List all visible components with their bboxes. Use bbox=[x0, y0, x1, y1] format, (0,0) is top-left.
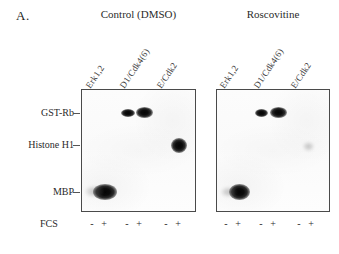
row-tick-histone-h1 bbox=[73, 145, 80, 146]
fcs-mark-roscovitine-erk12-plus: + bbox=[233, 218, 243, 229]
gel-panel-control bbox=[81, 89, 196, 212]
fcs-mark-control-ecdk2-minus: - bbox=[161, 218, 171, 229]
fcs-mark-roscovitine-d1cdk46-plus: + bbox=[268, 218, 278, 229]
band-histoneh1-ecdk2-control bbox=[171, 138, 187, 153]
band-gstrb-d1cdk46-roscovitine-right bbox=[270, 107, 287, 118]
band-mbp-erk12-control-smear bbox=[85, 186, 103, 197]
band-mbp-erk12-roscovitine-smear bbox=[221, 187, 236, 197]
fcs-mark-roscovitine-d1cdk46-minus: - bbox=[256, 218, 266, 229]
lane-label-ecdk2-roscovitine: E/Cdk2 bbox=[289, 61, 313, 90]
lane-label-erk12-roscovitine: Erk1,2 bbox=[218, 63, 241, 90]
fcs-mark-control-d1cdk46-plus: + bbox=[134, 218, 144, 229]
lane-label-d1cdk46-roscovitine: D1/Cdk4(6) bbox=[252, 47, 286, 90]
row-label-histone-h1: Histone H1 bbox=[0, 139, 74, 150]
band-gstrb-d1cdk46-roscovitine-left bbox=[255, 109, 268, 117]
row-label-mbp: MBP bbox=[0, 186, 74, 197]
band-gstrb-d1cdk46-control-right bbox=[136, 107, 153, 118]
gel-panel-roscovitine bbox=[216, 89, 330, 212]
figure-panel-a: A. Control (DMSO) Roscovitine Erk1,2 D1/… bbox=[0, 0, 339, 254]
fcs-mark-control-d1cdk46-minus: - bbox=[122, 218, 132, 229]
fcs-mark-roscovitine-erk12-minus: - bbox=[221, 218, 231, 229]
lane-label-ecdk2-control: E/Cdk2 bbox=[155, 61, 179, 90]
fcs-mark-control-ecdk2-plus: + bbox=[173, 218, 183, 229]
fcs-mark-roscovitine-ecdk2-plus: + bbox=[306, 218, 316, 229]
fcs-mark-control-erk12-minus: - bbox=[87, 218, 97, 229]
band-histoneh1-ecdk2-roscovitine-trace bbox=[303, 142, 314, 151]
lane-label-erk12-control: Erk1,2 bbox=[84, 63, 107, 90]
band-gstrb-d1cdk46-control-left bbox=[121, 109, 135, 117]
row-tick-gst-rb bbox=[73, 113, 80, 114]
row-tick-mbp bbox=[73, 192, 80, 193]
row-label-fcs: FCS bbox=[40, 218, 58, 229]
group-title-roscovitine: Roscovitine bbox=[216, 8, 330, 20]
fcs-mark-control-erk12-plus: + bbox=[99, 218, 109, 229]
panel-letter: A. bbox=[16, 8, 30, 24]
lane-label-d1cdk46-control: D1/Cdk4(6) bbox=[118, 47, 152, 90]
fcs-mark-roscovitine-ecdk2-minus: - bbox=[294, 218, 304, 229]
group-title-control: Control (DMSO) bbox=[81, 8, 196, 20]
row-label-gst-rb: GST-Rb bbox=[0, 107, 74, 118]
